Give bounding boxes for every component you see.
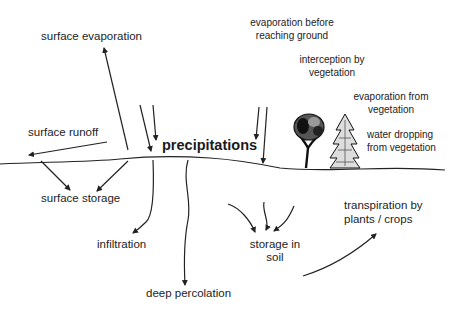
label-line: soil bbox=[241, 251, 309, 264]
label-deep-percolation: deep percolation bbox=[146, 287, 231, 300]
label-evaporation-from-vegetation: evaporation from vegetation bbox=[337, 90, 445, 116]
label-surface-evaporation: surface evaporation bbox=[41, 30, 142, 43]
surface-runoff-arrow bbox=[29, 142, 107, 155]
diagram-canvas bbox=[0, 0, 466, 323]
conifer-tree-icon bbox=[330, 114, 360, 168]
label-surface-storage: surface storage bbox=[41, 192, 120, 205]
label-precipitations: precipitations bbox=[162, 139, 257, 152]
label-line: vegetation bbox=[337, 103, 445, 116]
label-storage-in-soil: storage in soil bbox=[241, 238, 309, 264]
label-line: water dropping bbox=[367, 128, 463, 141]
label-line: storage in bbox=[241, 238, 309, 251]
precipitation-arrow-3 bbox=[263, 107, 267, 163]
label-line: evaporation from bbox=[337, 90, 445, 103]
label-transpiration-by-plants: transpiration by plants / crops bbox=[344, 198, 423, 226]
surface-storage-arrow-right bbox=[97, 161, 128, 191]
label-line: vegetation bbox=[282, 66, 382, 79]
label-line: evaporation before bbox=[237, 16, 347, 29]
infiltration-arrow bbox=[133, 160, 153, 233]
label-line: transpiration by bbox=[344, 198, 423, 212]
ground-line bbox=[0, 157, 445, 170]
storage-soil-arrow-1 bbox=[228, 204, 255, 232]
precipitation-arrow-2 bbox=[153, 105, 156, 140]
label-interception-by-vegetation: interception by vegetation bbox=[282, 53, 382, 79]
label-line: from vegetation bbox=[367, 141, 463, 154]
surface-storage-arrow-left bbox=[41, 161, 70, 190]
label-infiltration: infiltration bbox=[97, 238, 146, 251]
deep-percolation-arrow bbox=[184, 160, 189, 285]
storage-soil-arrow-3 bbox=[274, 206, 294, 231]
label-surface-runoff: surface runoff bbox=[28, 126, 98, 139]
transpiration-arrow bbox=[303, 234, 376, 276]
label-line: reaching ground bbox=[237, 29, 347, 42]
evaporation-before-arrow bbox=[256, 107, 259, 139]
surface-evaporation-arrow bbox=[104, 48, 128, 150]
label-water-dropping-from-vegetation: water dropping from vegetation bbox=[367, 128, 463, 154]
deciduous-tree-icon bbox=[294, 114, 324, 168]
label-line: plants / crops bbox=[344, 212, 423, 226]
label-evaporation-before-reaching-ground: evaporation before reaching ground bbox=[237, 16, 347, 42]
storage-soil-arrow-2 bbox=[264, 202, 267, 230]
label-line: interception by bbox=[282, 53, 382, 66]
precipitation-arrow-1 bbox=[140, 105, 151, 151]
